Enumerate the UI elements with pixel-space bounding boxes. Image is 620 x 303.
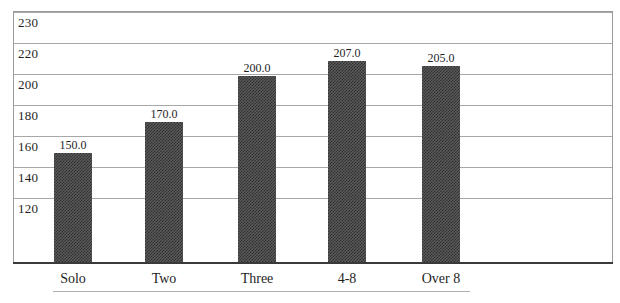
y-axis-tick-label: 200 xyxy=(18,78,38,91)
x-axis-line xyxy=(13,262,613,264)
x-axis-category-two: Two xyxy=(124,272,204,286)
gridline-120 xyxy=(14,198,612,199)
bar-two xyxy=(145,122,183,262)
gridline-140 xyxy=(14,167,612,168)
bar-chart: 230 220 200 180 160 140 120 150.0 170.0 … xyxy=(0,0,620,303)
gridline-230 xyxy=(14,12,612,13)
y-axis-tick-label: 140 xyxy=(18,171,38,184)
x-axis-category-over-8: Over 8 xyxy=(401,272,481,286)
bar-over-8 xyxy=(422,66,460,262)
gridline-220 xyxy=(14,43,612,44)
y-axis-tick-label: 120 xyxy=(18,202,38,215)
x-axis-category-solo: Solo xyxy=(33,272,113,286)
bar-value-label: 150.0 xyxy=(33,139,113,151)
x-axis-label-underline xyxy=(53,291,470,292)
bar-value-label: 205.0 xyxy=(401,52,481,64)
bar-4-8 xyxy=(328,61,366,262)
y-axis-tick-label: 220 xyxy=(18,47,38,60)
bar-solo xyxy=(54,153,92,262)
y-axis-tick-label: 180 xyxy=(18,109,38,122)
gridline-180 xyxy=(14,105,612,106)
x-axis-category-4-8: 4-8 xyxy=(307,272,387,286)
bar-three xyxy=(238,76,276,262)
gridline-160 xyxy=(14,136,612,137)
bar-value-label: 207.0 xyxy=(307,47,387,59)
bar-value-label: 170.0 xyxy=(124,108,204,120)
gridline-200 xyxy=(14,74,612,75)
y-axis-tick-label: 230 xyxy=(18,16,38,29)
x-axis-category-three: Three xyxy=(217,272,297,286)
bar-value-label: 200.0 xyxy=(217,62,297,74)
